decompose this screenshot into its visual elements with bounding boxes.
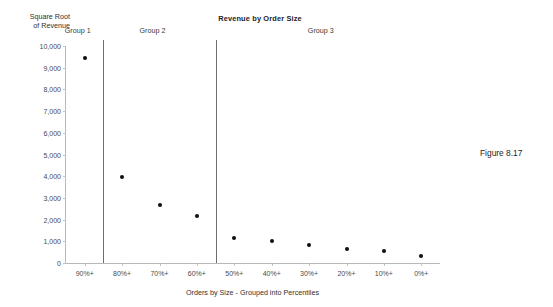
x-tick-mark [421, 263, 422, 266]
x-axis-title: Orders by Size - Grouped into Percentile… [65, 288, 440, 297]
x-tick-label: 60%+ [188, 270, 206, 277]
group-label-3: Group 3 [308, 26, 334, 35]
y-axis-title: Square Root of Revenue [4, 12, 70, 31]
y-tick-mark [63, 68, 66, 69]
figure-caption: Figure 8.17 [480, 148, 522, 158]
x-tick-label: 40%+ [263, 270, 281, 277]
data-point [307, 243, 311, 247]
y-tick-mark [63, 46, 66, 47]
y-tick-mark [63, 89, 66, 90]
data-point [195, 214, 199, 218]
data-point [83, 56, 87, 60]
data-point [382, 249, 386, 253]
x-tick-label: 50%+ [225, 270, 243, 277]
chart-title: Revenue by Order Size [150, 14, 370, 23]
x-tick-label: 0%+ [414, 270, 428, 277]
x-tick-label: 90%+ [76, 270, 94, 277]
figure-container: Square Root of Revenue Revenue by Order … [0, 0, 553, 307]
x-tick-label: 80%+ [113, 270, 131, 277]
x-tick-label: 70%+ [150, 270, 168, 277]
y-tick-mark [63, 241, 66, 242]
group-label-1: Group 1 [65, 26, 91, 35]
y-tick-mark [63, 155, 66, 156]
y-tick-mark [63, 263, 66, 264]
y-tick-label: 0 [57, 260, 61, 267]
group-divider [103, 40, 104, 263]
y-tick-label: 10,000 [40, 43, 61, 50]
y-tick-label: 7,000 [43, 108, 61, 115]
y-tick-mark [63, 111, 66, 112]
x-tick-label: 20%+ [337, 270, 355, 277]
y-tick-mark [63, 198, 66, 199]
x-tick-mark [160, 263, 161, 266]
x-tick-mark [122, 263, 123, 266]
group-divider [216, 40, 217, 263]
data-point [419, 254, 423, 258]
x-tick-mark [85, 263, 86, 266]
plot-area: 10,0009,0008,0007,0006,0005,0004,0003,00… [65, 46, 440, 264]
y-tick-label: 9,000 [43, 64, 61, 71]
y-tick-label: 5,000 [43, 151, 61, 158]
x-tick-label: 30%+ [300, 270, 318, 277]
data-point [120, 175, 124, 179]
y-tick-label: 4,000 [43, 173, 61, 180]
x-tick-mark [309, 263, 310, 266]
data-point [345, 247, 349, 251]
y-tick-mark [63, 133, 66, 134]
y-tick-label: 3,000 [43, 194, 61, 201]
x-tick-mark [272, 263, 273, 266]
x-tick-mark [347, 263, 348, 266]
y-tick-label: 2,000 [43, 216, 61, 223]
x-tick-mark [234, 263, 235, 266]
data-point [270, 239, 274, 243]
x-tick-mark [384, 263, 385, 266]
data-point [158, 203, 162, 207]
y-tick-label: 1,000 [43, 238, 61, 245]
group-label-2: Group 2 [140, 26, 166, 35]
y-tick-mark [63, 220, 66, 221]
x-tick-mark [197, 263, 198, 266]
y-tick-label: 8,000 [43, 86, 61, 93]
data-point [232, 236, 236, 240]
y-tick-label: 6,000 [43, 129, 61, 136]
x-tick-label: 10%+ [375, 270, 393, 277]
y-tick-mark [63, 176, 66, 177]
